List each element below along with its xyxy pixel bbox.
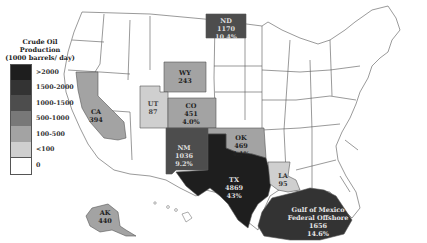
state-abbr: UT — [148, 100, 159, 108]
state-value: 1170 — [215, 25, 237, 33]
legend-swatch — [10, 126, 32, 142]
state-value: 4869 — [225, 184, 243, 192]
legend-label: 500-1000 — [36, 114, 69, 121]
us-map — [0, 0, 427, 243]
offshore-name: Federal Offshore — [288, 214, 349, 222]
state-share: 9.2% — [175, 160, 193, 168]
legend-label: 1000-1500 — [36, 99, 74, 106]
label-nd: ND 1170 10.4% — [215, 17, 237, 41]
state-share: 4.0% — [182, 118, 200, 126]
label-tx: TX 4869 43% — [225, 176, 243, 200]
state-share: 4.1% — [232, 150, 250, 158]
legend-swatch — [10, 95, 32, 111]
legend-label: <100 — [36, 145, 54, 152]
label-wy: WY 243 — [178, 69, 192, 85]
state-abbr: AK — [98, 209, 112, 217]
label-la: LA 95 — [278, 172, 288, 188]
state-value: 440 — [98, 217, 112, 225]
legend-title-line: Crude Oil — [2, 38, 78, 46]
state-abbr: CA — [89, 108, 103, 116]
state-abbr: NM — [175, 144, 193, 152]
state-share: 10.4% — [215, 33, 237, 41]
state-abbr: WY — [178, 69, 192, 77]
state-value: 394 — [89, 116, 103, 124]
state-abbr: OK — [232, 134, 250, 142]
offshore-name: Gulf of Mexico — [288, 206, 349, 214]
label-nm: NM 1036 9.2% — [175, 144, 193, 168]
legend-title-line: Production — [2, 46, 78, 54]
state-share: 43% — [225, 192, 243, 200]
label-co: CO 451 4.0% — [182, 102, 200, 126]
legend-label: 100-500 — [36, 130, 65, 137]
state-value: 1036 — [175, 152, 193, 160]
legend-title-line: (1000 barrels/ day) — [2, 54, 78, 62]
state-abbr: ND — [215, 17, 237, 25]
state-value: 451 — [182, 110, 200, 118]
legend-label: >2000 — [36, 68, 59, 75]
hawaii-islands — [154, 202, 192, 222]
state-abbr: CO — [182, 102, 200, 110]
label-gulf-offshore: Gulf of Mexico Federal Offshore 1656 14.… — [288, 206, 349, 238]
label-ut: UT 87 — [148, 100, 159, 116]
label-ak: AK 440 — [98, 209, 112, 225]
offshore-share: 14.6% — [288, 230, 349, 238]
state-value: 469 — [232, 142, 250, 150]
legend-swatch — [10, 157, 32, 175]
legend-swatch — [10, 142, 32, 158]
label-ok: OK 469 4.1% — [232, 134, 250, 158]
state-abbr: TX — [225, 176, 243, 184]
legend-swatch — [10, 80, 32, 96]
state-value: 243 — [178, 77, 192, 85]
state-value: 95 — [278, 180, 288, 188]
offshore-value: 1656 — [288, 222, 349, 230]
label-ca: CA 394 — [89, 108, 103, 124]
legend-swatch — [10, 111, 32, 127]
state-value: 87 — [148, 108, 159, 116]
legend-label: 0 — [36, 161, 40, 168]
legend-label: 1500-2000 — [36, 83, 74, 90]
state-abbr: LA — [278, 172, 288, 180]
